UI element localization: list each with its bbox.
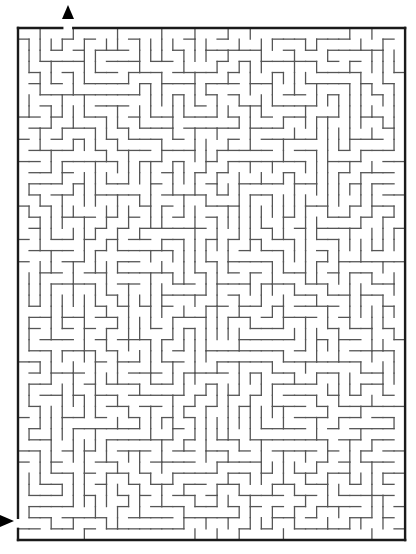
finish-arrow-icon — [0, 515, 14, 527]
start-arrow-icon — [62, 5, 74, 19]
maze-walls — [18, 28, 405, 540]
maze — [0, 0, 416, 554]
